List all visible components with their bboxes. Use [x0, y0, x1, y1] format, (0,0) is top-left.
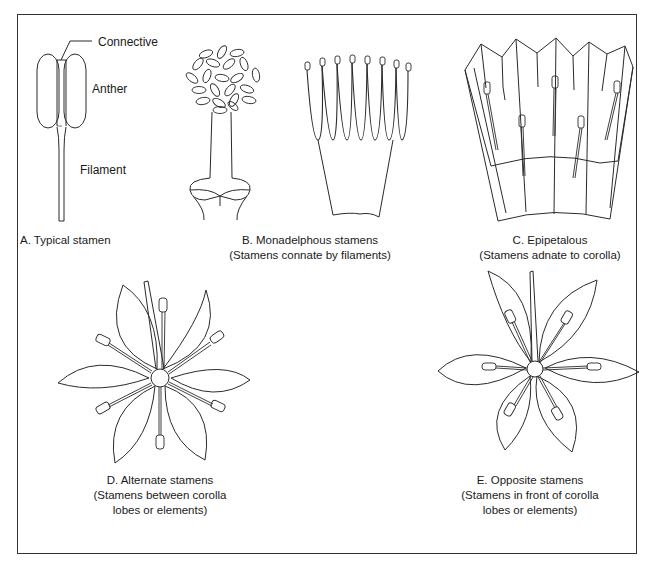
- caption-line: B. Monadelphous stamens: [210, 233, 410, 248]
- anther-label: Anther: [92, 82, 127, 97]
- caption-line: C. Epipetalous: [465, 233, 635, 248]
- caption-typical-stamen: A. Typical stamen: [20, 233, 111, 248]
- caption-monadelphous: B. Monadelphous stamens (Stamens connate…: [210, 233, 410, 263]
- typical-stamen-drawing: uuu: [37, 41, 92, 221]
- epipetalous-corolla-drawing: [465, 38, 633, 221]
- caption-line: (Stamens adnate to corolla): [465, 248, 635, 263]
- svg-text:uuu: uuu: [57, 124, 62, 128]
- caption-line: lobes or elements): [430, 503, 630, 518]
- caption-line: E. Opposite stamens: [430, 473, 630, 488]
- caption-epipetalous: C. Epipetalous (Stamens adnate to coroll…: [465, 233, 635, 263]
- caption-line: A. Typical stamen: [20, 233, 111, 248]
- connective-label: Connective: [98, 35, 158, 50]
- caption-opposite-stamens: E. Opposite stamens (Stamens in front of…: [430, 473, 630, 518]
- monadelphous-column-drawing: [184, 44, 260, 220]
- caption-line: (Stamens connate by filaments): [210, 248, 410, 263]
- caption-line: (Stamens between corolla: [70, 488, 250, 503]
- caption-line: D. Alternate stamens: [70, 473, 250, 488]
- monadelphous-tube-drawing: [305, 55, 411, 217]
- alternate-stamens-flower-drawing: [58, 281, 250, 463]
- opposite-stamens-flower-drawing: [438, 271, 639, 452]
- caption-alternate-stamens: D. Alternate stamens (Stamens between co…: [70, 473, 250, 518]
- caption-line: lobes or elements): [70, 503, 250, 518]
- filament-label: Filament: [80, 163, 126, 178]
- caption-line: (Stamens in front of corolla: [430, 488, 630, 503]
